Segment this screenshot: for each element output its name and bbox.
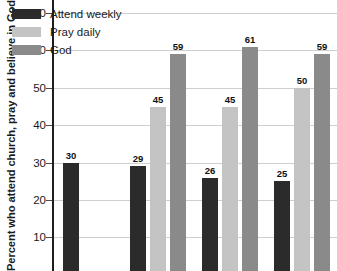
y-axis-tick [46,88,52,89]
bar-value-label: 50 [288,75,316,86]
y-axis-tick [46,200,52,201]
legend-item[interactable]: Pray daily [12,23,122,40]
bar [222,107,238,271]
bar [63,163,79,271]
legend-swatch-icon [12,27,41,37]
y-axis-tick-label: 50 [24,82,46,94]
bar-chart: Percent who attend church, pray and beli… [0,0,337,271]
legend-swatch-icon [12,45,41,55]
bar [242,47,258,271]
legend-item[interactable]: Attend weekly [12,5,122,22]
bar-value-label: 59 [164,41,192,52]
legend-swatch-icon [12,9,41,19]
y-axis-tick-label: 10 [24,231,46,243]
legend-item[interactable]: God [12,41,122,58]
legend: Attend weeklyPray dailyGod [12,5,122,59]
y-axis-tick-label: 30 [24,157,46,169]
bar [130,166,146,271]
bar-value-label: 61 [236,34,264,45]
bar-value-label: 59 [308,41,336,52]
legend-item-label: Pray daily [50,26,101,38]
y-axis-tick-label: 40 [24,119,46,131]
y-axis-tick-label: 20 [24,194,46,206]
bar-value-label: 30 [57,150,85,161]
bar [294,88,310,271]
legend-item-label: God [50,44,72,56]
bar-value-label: 25 [268,168,296,179]
bar [202,178,218,271]
y-axis-tick [46,125,52,126]
bar [170,54,186,271]
legend-item-label: Attend weekly [50,8,122,20]
bar-value-label: 26 [196,165,224,176]
bar-value-label: 45 [144,94,172,105]
bar [274,181,290,271]
bar-value-label: 29 [124,153,152,164]
y-axis-tick [46,237,52,238]
bar [314,54,330,271]
bar [150,107,166,271]
y-axis-tick [46,163,52,164]
bar-value-label: 45 [216,94,244,105]
